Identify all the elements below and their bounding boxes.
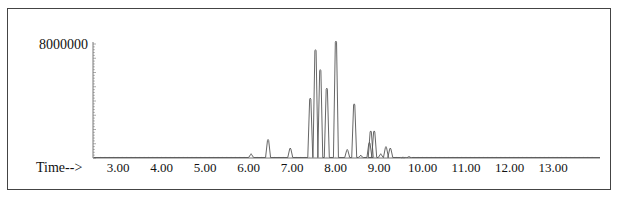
y-axis (93, 42, 96, 158)
x-tick-label: 5.00 (194, 160, 217, 175)
x-tick-label: 3.00 (107, 160, 130, 175)
x-tick-label: 10.00 (408, 160, 437, 175)
x-tick-label: 8.00 (324, 160, 347, 175)
x-tick-label: 7.00 (281, 160, 304, 175)
x-tick-label: 11.00 (452, 160, 481, 175)
x-tick-label: 13.00 (538, 160, 567, 175)
x-axis: 3.004.005.006.007.008.009.0010.0011.0012… (93, 157, 600, 175)
chromatogram-chart: 3.004.005.006.007.008.009.0010.0011.0012… (0, 0, 617, 198)
x-tick-label: 6.00 (237, 160, 260, 175)
chromatogram-trace (94, 41, 600, 158)
x-tick-label: 9.00 (368, 160, 391, 175)
x-tick-label: 12.00 (495, 160, 524, 175)
x-tick-label: 4.00 (150, 160, 173, 175)
y-max-label: 8000000 (39, 37, 88, 52)
x-axis-prefix: Time--> (36, 160, 82, 175)
